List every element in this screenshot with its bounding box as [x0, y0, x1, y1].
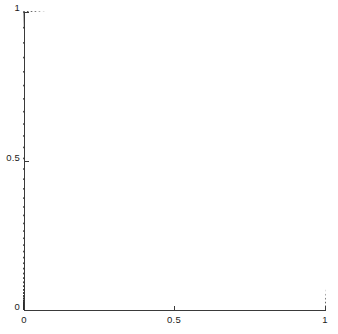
x-axis-tick-label-0-5: 0.5 — [161, 314, 187, 325]
x-axis-tick-0-5 — [174, 306, 175, 310]
y-axis-tick-1 — [25, 12, 29, 13]
y-axis-tick-0 — [25, 310, 29, 311]
x-axis-tick-label-1: 1 — [317, 314, 333, 325]
figure-root: 1 0.5 0 0 0.5 1 — [0, 0, 338, 334]
plot-area — [24, 12, 325, 310]
x-axis-tick-0 — [24, 306, 25, 310]
y-axis-tick-label-0-5: 0.5 — [0, 152, 20, 163]
x-axis-line — [24, 310, 326, 311]
y-axis-tick-label-0: 0 — [0, 301, 20, 312]
y-axis-tick-0-5 — [25, 161, 29, 162]
x-axis-tick-1 — [325, 306, 326, 310]
y-axis-tick-label-1: 1 — [0, 2, 20, 13]
x-axis-tick-label-0: 0 — [15, 314, 33, 325]
